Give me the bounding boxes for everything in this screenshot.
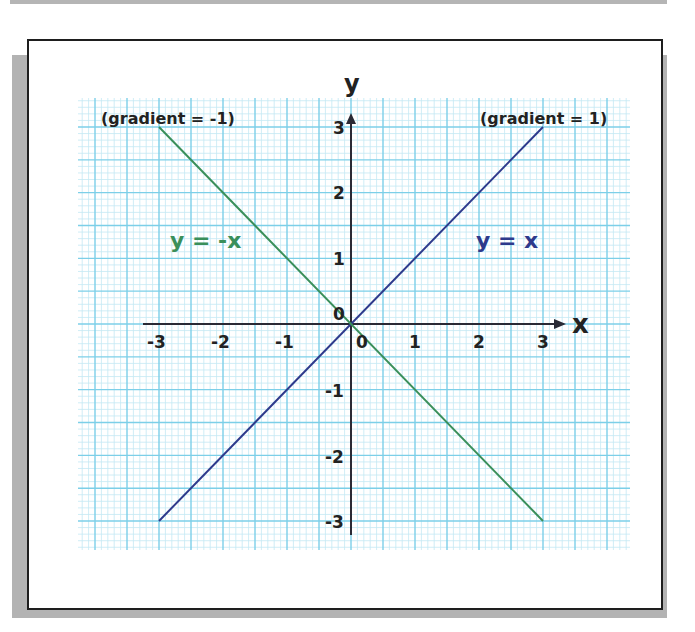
y-tick: 1 [333, 249, 345, 269]
y-tick: -2 [325, 447, 344, 467]
y-axis-arrow-icon [346, 113, 356, 124]
x-tick-origin: 0 [356, 332, 368, 352]
equation-pos-label: y = x [476, 228, 538, 253]
x-tick: 3 [537, 332, 549, 352]
x-tick: -2 [211, 332, 230, 352]
y-tick: 2 [333, 183, 345, 203]
x-tick: -1 [275, 332, 294, 352]
gradient-pos-label: (gradient = 1) [480, 109, 607, 128]
y-tick: -3 [325, 512, 344, 532]
x-axis-label: x [572, 309, 589, 339]
x-tick: 2 [473, 332, 485, 352]
x-axis-arrow-icon [554, 319, 566, 329]
x-tick: -3 [147, 332, 166, 352]
y-axis-label: y [344, 70, 360, 98]
y-tick: -1 [325, 381, 344, 401]
graph-plot: y x -3 -2 -1 0 1 2 3 3 2 1 0 -1 -2 -3 (g… [0, 0, 695, 632]
gradient-neg-label: (gradient = -1) [101, 109, 235, 128]
y-tick: 3 [333, 118, 345, 138]
equation-neg-label: y = -x [170, 228, 241, 253]
x-tick: 1 [409, 332, 421, 352]
y-tick-origin: 0 [333, 304, 345, 324]
